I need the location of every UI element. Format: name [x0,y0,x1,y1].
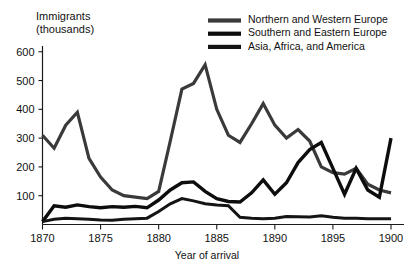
chart-canvas: Immigrants (thousands) 60050040030020010… [0,0,414,268]
chart-legend: Northern and Western EuropeSouthern and … [208,13,388,51]
y-tick-label: 600 [16,46,34,58]
x-tick-label: 1895 [321,232,345,244]
x-tick-label: 1875 [88,232,112,244]
x-axis-title: Year of arrival [175,249,239,261]
legend-swatch-1 [208,32,241,36]
y-axis-ticks: 600500400300200100 [16,46,42,202]
x-axis-ticks: 1870187518801885189018951900 [30,225,403,244]
immigration-line-chart: Immigrants (thousands) 60050040030020010… [0,0,414,268]
y-tick-label: 100 [16,190,34,202]
y-tick-label: 400 [16,103,34,115]
x-tick-label: 1880 [146,232,170,244]
y-tick-label: 200 [16,161,34,173]
y-axis-title: Immigrants (thousands) [36,10,94,35]
legend-label-2: Asia, Africa, and America [248,40,365,52]
y-axis-title-line2: (thousands) [36,23,94,35]
legend-swatch-2 [208,45,241,49]
series-lines [43,65,392,222]
series-line-1 [43,138,392,221]
legend-label-0: Northern and Western Europe [248,13,388,25]
x-tick-label: 1885 [205,232,229,244]
series-line-2 [43,199,392,222]
x-tick-label: 1870 [30,232,54,244]
legend-label-1: Southern and Eastern Europe [248,26,387,38]
y-tick-label: 500 [16,75,34,87]
x-tick-label: 1890 [263,232,287,244]
y-axis-title-line1: Immigrants [36,10,91,22]
y-tick-label: 300 [16,132,34,144]
legend-swatch-0 [208,18,241,22]
x-tick-label: 1900 [379,232,403,244]
